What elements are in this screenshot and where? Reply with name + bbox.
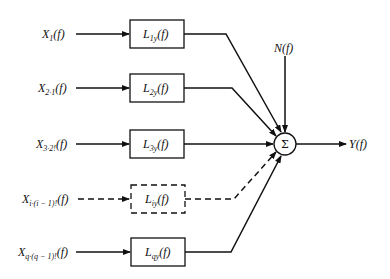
input-path-2: X2·1(f) L2y(f) <box>37 74 276 136</box>
block-label-1: L1y(f) <box>142 27 169 43</box>
input-label-2: X2·1(f) <box>37 81 67 97</box>
input-path-q: Xq·(q − 1)!(f) Lqy(f) <box>17 156 281 266</box>
block-label-i: Liy(f) <box>144 192 169 208</box>
input-label-3: X3·2!(f) <box>35 137 67 153</box>
block-label-q: Lqy(f) <box>144 245 171 261</box>
input-label-q: Xq·(q − 1)!(f) <box>17 245 68 261</box>
output-label: Y(f) <box>349 137 367 151</box>
input-path-i: Xi·(i − 1)!(f) Liy(f) <box>21 152 276 213</box>
block-label-2: L2y(f) <box>142 81 169 97</box>
input-path-3: X3·2!(f) L3y(f) <box>35 130 273 158</box>
input-label-1: X1(f) <box>41 27 65 43</box>
sigma-symbol: Σ <box>281 138 289 151</box>
summing-junction: Σ <box>274 133 296 155</box>
noise-input: N(f) <box>273 41 293 132</box>
noise-label: N(f) <box>273 41 293 55</box>
input-path-1: X1(f) L1y(f) <box>41 20 281 132</box>
block-diagram: X1(f) L1y(f) X2·1(f) L2y(f) X3·2!(f) L3y… <box>0 0 390 279</box>
block-label-3: L3y(f) <box>142 137 169 153</box>
input-label-i: Xi·(i − 1)!(f) <box>21 192 69 208</box>
output-path: Y(f) <box>296 137 367 151</box>
